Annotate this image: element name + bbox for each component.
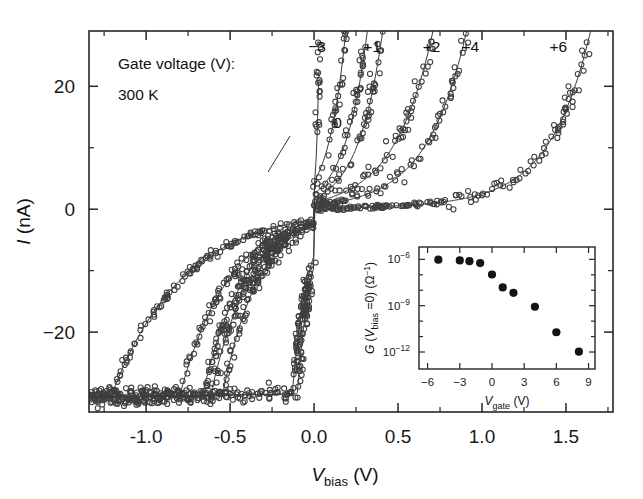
y-tick-label: −20 <box>43 322 75 343</box>
inset-data-point <box>488 270 496 278</box>
figure-container: -1.0-0.50.00.51.01.5200−20Vbias (V)I (nA… <box>0 0 643 499</box>
x-tick-label: -1.0 <box>130 426 163 447</box>
inset-data-point <box>476 259 484 267</box>
x-tick-label: -0.5 <box>214 426 247 447</box>
inset-x-tick-label: −3 <box>453 376 466 388</box>
series-label-+4: +4 <box>461 38 479 55</box>
x-tick-label: 0.5 <box>385 426 411 447</box>
inset-x-tick-label: 6 <box>553 376 559 388</box>
inset-x-tick-label: 9 <box>585 376 591 388</box>
x-tick-label: 0.0 <box>301 426 327 447</box>
temperature-label: 300 K <box>118 86 159 103</box>
series-label-+1: +1 <box>363 38 381 55</box>
inset-data-point <box>531 303 539 311</box>
inset-data-point <box>509 289 517 297</box>
iv-characteristics-chart: -1.0-0.50.00.51.01.5200−20Vbias (V)I (nA… <box>0 0 643 499</box>
series-label-0: 0 <box>333 114 342 131</box>
inset-x-tick-label: 0 <box>489 376 495 388</box>
inset-data-point <box>465 257 473 265</box>
x-tick-label: 1.0 <box>469 426 495 447</box>
inset-data-point <box>575 348 583 356</box>
y-tick-label: 20 <box>54 76 75 97</box>
series-label-+2: +2 <box>423 38 441 55</box>
inset-frame <box>419 247 595 369</box>
inset-data-point <box>552 328 560 336</box>
inset-data-point <box>499 283 507 291</box>
inset-data-point <box>434 256 442 264</box>
series-label-+6: +6 <box>550 38 568 55</box>
inset-x-tick-label: −6 <box>421 376 434 388</box>
y-axis-label: I (nA) <box>13 198 34 244</box>
legend-title: Gate voltage (V): <box>118 55 235 72</box>
inset-data-point <box>456 256 464 264</box>
y-tick-label: 0 <box>64 199 75 220</box>
inset-x-tick-label: 3 <box>521 376 527 388</box>
x-tick-label: 1.5 <box>553 426 579 447</box>
series-label--3: −3 <box>308 38 326 55</box>
